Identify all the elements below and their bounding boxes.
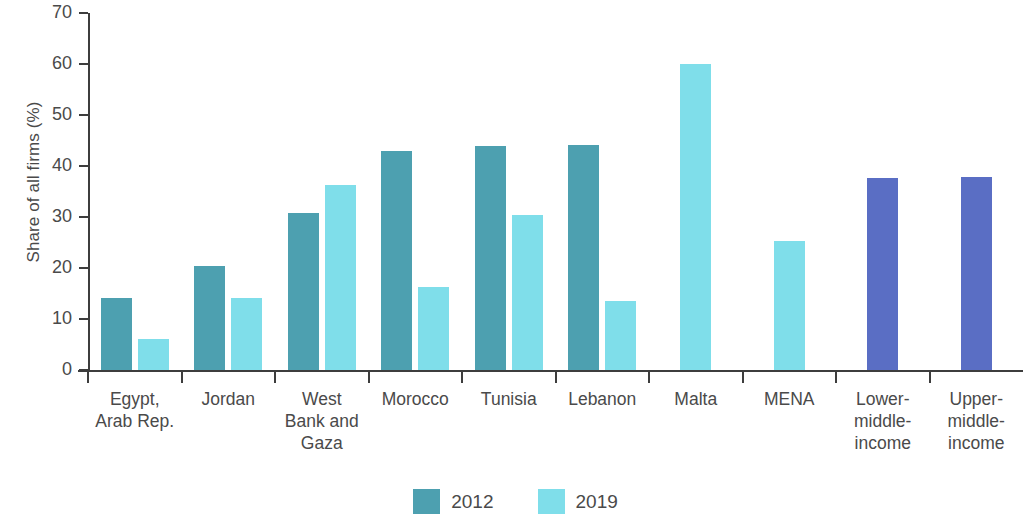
y-axis-tick-label: 10	[12, 308, 72, 329]
x-axis-category-label: Lower-middle-income	[830, 388, 936, 454]
bar-2019	[231, 298, 262, 370]
bar-2019	[512, 215, 543, 370]
x-axis-category-label-line: Morocco	[363, 388, 469, 410]
bar-2019	[325, 185, 356, 370]
x-axis-category-label: Upper-middle-income	[924, 388, 1030, 454]
y-axis-tick-label: 70	[12, 2, 72, 23]
x-axis-category-label-line: MENA	[737, 388, 843, 410]
x-axis-category-label-line: Lower-	[830, 388, 936, 410]
bar-2012	[101, 298, 132, 370]
x-axis-category-label-line: Malta	[643, 388, 749, 410]
x-axis-tick	[274, 372, 276, 383]
x-axis-category-label-line: middle-	[924, 410, 1030, 432]
x-axis-tick	[835, 372, 837, 383]
legend-item[interactable]: 2012	[413, 489, 493, 514]
x-axis-category-label: Egypt,Arab Rep.	[82, 388, 188, 432]
y-axis-tick	[79, 165, 88, 167]
y-axis-tick	[79, 63, 88, 65]
x-axis-category-label-line: middle-	[830, 410, 936, 432]
bar-2019	[774, 241, 805, 370]
y-axis-tick	[79, 12, 88, 14]
y-axis-tick-label: 30	[12, 206, 72, 227]
y-axis-tick-label: 50	[12, 104, 72, 125]
x-axis-category-label-line: Jordan	[176, 388, 282, 410]
bar-benchmark	[867, 178, 898, 370]
x-axis-category-label-line: income	[830, 432, 936, 454]
x-axis-category-label-line: West	[269, 388, 375, 410]
x-axis-category-label-line: Arab Rep.	[82, 410, 188, 432]
bar-2019	[680, 64, 711, 370]
bar-2012	[381, 151, 412, 370]
x-axis-category-label: Morocco	[363, 388, 469, 410]
x-axis-category-label-line: Gaza	[269, 432, 375, 454]
y-axis-line	[88, 13, 90, 370]
x-axis-tick	[181, 372, 183, 383]
x-axis-tick	[929, 372, 931, 383]
y-axis-tick	[79, 216, 88, 218]
x-axis-category-label: Malta	[643, 388, 749, 410]
legend-swatch	[538, 489, 565, 514]
bar-2012	[288, 213, 319, 370]
y-axis-tick-label: 60	[12, 53, 72, 74]
x-axis-category-label: Lebanon	[550, 388, 656, 410]
y-axis-tick	[79, 114, 88, 116]
y-axis-tick-label: 0	[12, 359, 72, 380]
y-axis-tick	[79, 369, 88, 371]
bar-2012	[475, 146, 506, 370]
plot-area: 010203040506070	[88, 13, 1023, 370]
y-axis-tick-label: 40	[12, 155, 72, 176]
x-axis-tick	[555, 372, 557, 383]
x-axis-category-label: MENA	[737, 388, 843, 410]
bar-2012	[194, 266, 225, 370]
bar-2012	[568, 145, 599, 370]
x-axis-category-label-line: Egypt,	[82, 388, 188, 410]
bar-chart: Share of all firms (%) 010203040506070 2…	[0, 0, 1031, 524]
bar-2019	[605, 301, 636, 370]
legend-label: 2019	[576, 491, 618, 513]
legend-label: 2012	[451, 491, 493, 513]
x-axis-line	[78, 370, 1023, 372]
y-axis-tick	[79, 267, 88, 269]
x-axis-tick	[461, 372, 463, 383]
x-axis-category-label: Jordan	[176, 388, 282, 410]
x-axis-tick	[742, 372, 744, 383]
bar-benchmark	[961, 177, 992, 370]
x-axis-tick	[368, 372, 370, 383]
y-axis-tick	[79, 318, 88, 320]
legend-swatch	[413, 489, 440, 514]
x-axis-category-label-line: Upper-	[924, 388, 1030, 410]
bar-2019	[138, 339, 169, 370]
x-axis-category-label: WestBank andGaza	[269, 388, 375, 454]
x-axis-category-label-line: Bank and	[269, 410, 375, 432]
bar-2019	[418, 287, 449, 370]
x-axis-category-label-line: Lebanon	[550, 388, 656, 410]
legend-item[interactable]: 2019	[538, 489, 618, 514]
x-axis-category-label: Tunisia	[456, 388, 562, 410]
chart-legend: 20122019	[0, 489, 1031, 514]
x-axis-category-label-line: income	[924, 432, 1030, 454]
y-axis-tick-label: 20	[12, 257, 72, 278]
x-axis-tick	[648, 372, 650, 383]
x-axis-origin-tick	[87, 372, 89, 383]
x-axis-category-label-line: Tunisia	[456, 388, 562, 410]
